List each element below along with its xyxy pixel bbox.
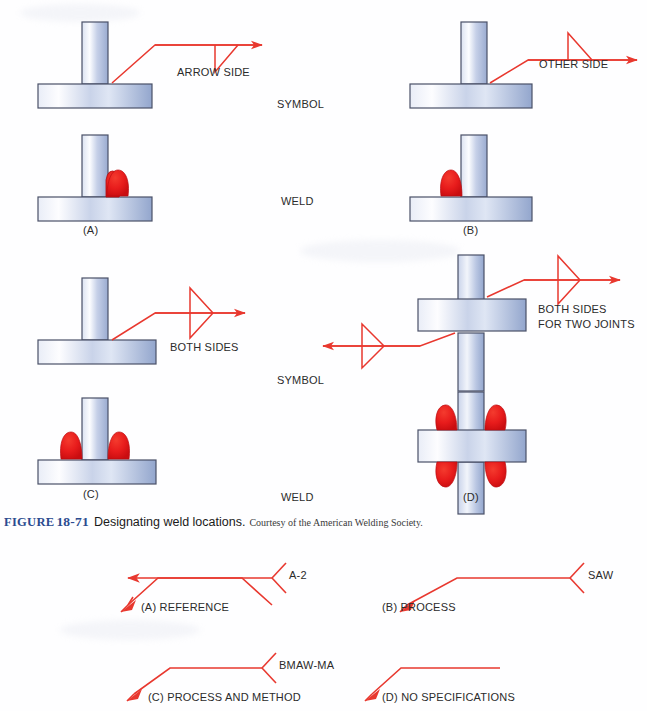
row-label-weld-1: WELD [281,195,314,207]
bottom-caption-a: (A) REFERENCE [141,601,229,613]
tail-text-c: BMAW-MA [279,659,334,671]
paper-texture [20,4,140,22]
panel-a-weld [38,135,152,221]
annotation-both-sides: BOTH SIDES [170,341,239,353]
panel-b-weld [410,135,532,221]
caption-b: (B) [463,224,478,236]
annotation-arrow-side: ARROW SIDE [177,66,250,78]
figure-caption: FIGURE18-71Designating weld locations.Co… [4,512,423,530]
figure-credit: Courtesy of the American Welding Society… [249,517,422,528]
bottom-caption-d: (D) NO SPECIFICATIONS [382,691,515,703]
annotation-other-side: OTHER SIDE [539,58,608,70]
caption-a: (A) [83,224,98,236]
figure-label-word: FIGURE [4,515,54,529]
paper-texture [60,620,200,640]
annotation-both-sides-two-joints-line2: FOR TWO JOINTS [538,318,635,330]
caption-c: (C) [83,488,99,500]
panel-a-symbol [38,22,262,108]
tail-text-b: SAW [588,569,613,581]
bottom-caption-b: (B) PROCESS [382,601,456,613]
panel-c-weld [38,398,156,484]
paper-texture [300,240,460,262]
figure-number: 18-71 [56,514,89,529]
row-label-symbol-1: SYMBOL [277,98,324,110]
tail-text-a: A-2 [289,569,307,581]
annotation-both-sides-two-joints-line1: BOTH SIDES [538,303,607,315]
caption-d: (D) [463,491,479,503]
row-label-symbol-2: SYMBOL [277,374,324,386]
figure-title: Designating weld locations. [94,515,245,529]
row-label-weld-2: WELD [281,491,314,503]
figure-page: ARROW SIDE OTHER SIDE SYMBOL WELD (A) (B… [0,0,647,711]
bottom-caption-c: (C) PROCESS AND METHOD [148,691,301,703]
